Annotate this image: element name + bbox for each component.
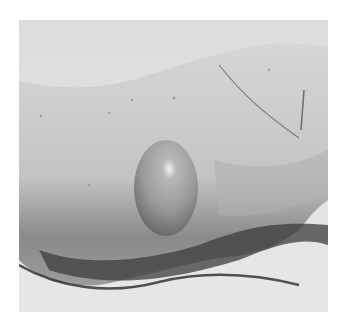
hand-illustration — [19, 20, 328, 312]
blister — [134, 140, 198, 236]
photo-hand-blister — [19, 20, 328, 312]
